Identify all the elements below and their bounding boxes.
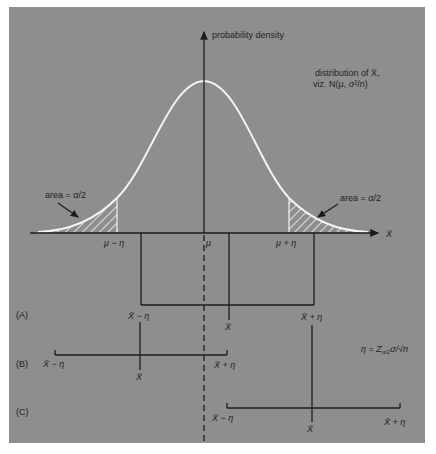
distribution-label-line2: viz. N(μ, σ²/n) [313, 79, 368, 89]
y-axis-label: probability density [212, 30, 285, 40]
mu-minus-eta-label: μ − η [103, 238, 124, 248]
interval-b-center-label: X̄ [135, 372, 143, 382]
left-area-label: area = α/2 [45, 190, 86, 200]
interval-c-row-label: (C) [16, 407, 29, 417]
right-area-label: area = α/2 [340, 193, 381, 203]
confidence-interval-diagram: X̄ probability density μ − η μ μ + η dis… [0, 0, 436, 454]
interval-c-lower-label: X̄ − η [211, 413, 233, 423]
interval-c-center-label: X̄ [306, 424, 314, 434]
x-axis-label: X̄ [385, 229, 393, 239]
interval-a-lower-label: X̄ − η [127, 311, 149, 321]
interval-b-lower-label: X̄ − η [42, 359, 64, 369]
mu-label: μ [205, 238, 211, 248]
interval-a-upper-label: X̄ + η [300, 312, 322, 322]
interval-b-upper-label: X̄ + η [213, 360, 235, 370]
interval-c-upper-label: X̄ + η [383, 417, 405, 427]
distribution-label-line1: distribution of X̄, [315, 68, 380, 78]
mu-plus-eta-label: μ + η [275, 238, 296, 248]
interval-b-row-label: (B) [16, 359, 28, 369]
interval-a-row-label: (A) [16, 310, 28, 320]
interval-a-center-label: X̄ [224, 322, 232, 332]
